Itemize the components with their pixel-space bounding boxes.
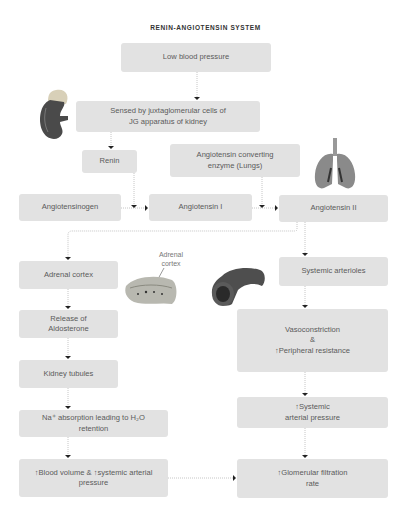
node-label: ↑Systemic arterial pressure: [285, 402, 340, 423]
node-gfr: ↑Glomerular filtration rate: [237, 459, 388, 498]
node-ace: Angiotensin converting enzyme (Lungs): [170, 144, 300, 177]
node-label: Sensed by juxtaglomerular cells of JG ap…: [110, 106, 226, 127]
arteriole-icon: [208, 264, 268, 310]
node-systemic-arterioles: Systemic arterioles: [279, 257, 388, 286]
node-label: Angiotensin I: [179, 202, 223, 213]
node-label: Vasoconstriction & ↑Peripheral resistanc…: [275, 325, 350, 357]
node-label: Release of Aldosterone: [48, 314, 89, 335]
node-label: Adrenal cortex: [44, 270, 93, 281]
node-jg-cells: Sensed by juxtaglomerular cells of JG ap…: [76, 101, 260, 132]
node-aldosterone: Release of Aldosterone: [19, 310, 118, 338]
node-label: Angiotensinogen: [42, 202, 99, 213]
node-vasoconstriction: Vasoconstriction & ↑Peripheral resistanc…: [237, 309, 388, 372]
node-label: ↑Glomerular filtration rate: [277, 468, 347, 489]
node-systemic-pressure: ↑Systemic arterial pressure: [237, 397, 388, 428]
lungs-icon: [312, 138, 358, 192]
node-label: Na⁺ absorption leading to H₂O retention: [42, 413, 145, 434]
node-angiotensin-1: Angiotensin I: [149, 194, 252, 221]
kidney-icon: [36, 86, 72, 142]
node-label: Low blood pressure: [163, 52, 229, 63]
node-angiotensinogen: Angiotensinogen: [19, 194, 121, 221]
node-label: Angiotensin II: [310, 203, 356, 214]
node-label: ↑Blood volume & ↑systemic arterial press…: [35, 468, 153, 489]
node-renin: Renin: [82, 150, 137, 173]
node-low-blood-pressure: Low blood pressure: [121, 43, 271, 72]
node-na-absorption: Na⁺ absorption leading to H₂O retention: [19, 410, 168, 437]
node-label: Kidney tubules: [44, 369, 94, 380]
node-adrenal-cortex: Adrenal cortex: [19, 261, 118, 289]
node-label: Systemic arterioles: [301, 266, 365, 277]
node-label: Renin: [100, 156, 120, 167]
node-angiotensin-2: Angiotensin II: [279, 195, 388, 222]
node-label: Angiotensin converting enzyme (Lungs): [197, 150, 274, 171]
node-kidney-tubules: Kidney tubules: [19, 360, 118, 388]
node-blood-volume: ↑Blood volume & ↑systemic arterial press…: [19, 459, 168, 497]
adrenal-gland-icon: [120, 266, 190, 310]
